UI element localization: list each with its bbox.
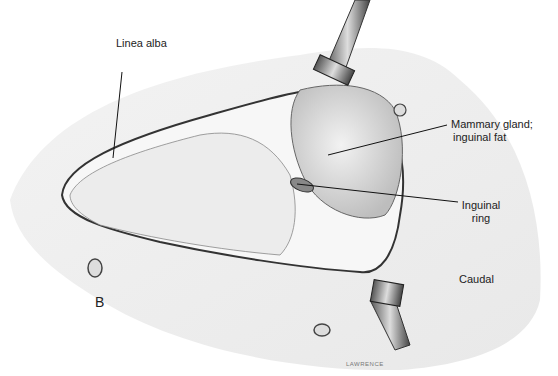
label-mammary-gland: Mammary gland; inguinal fat — [451, 118, 533, 144]
label-inguinal-ring: Inguinal ring — [461, 199, 501, 225]
nodule — [88, 259, 102, 277]
label-linea-alba: Linea alba — [116, 37, 167, 50]
panel-letter: B — [95, 294, 104, 310]
surgical-illustration — [0, 0, 558, 376]
label-caudal: Caudal — [459, 273, 494, 286]
label-mammary-line2: inguinal fat — [451, 131, 533, 144]
label-mammary-line1: Mammary gland; — [451, 118, 533, 131]
label-inguinal-line2: ring — [461, 212, 501, 225]
artist-signature: LAWRENCE — [346, 361, 384, 367]
nodule — [394, 104, 406, 116]
label-inguinal-line1: Inguinal — [461, 199, 501, 212]
nodule — [314, 324, 330, 336]
